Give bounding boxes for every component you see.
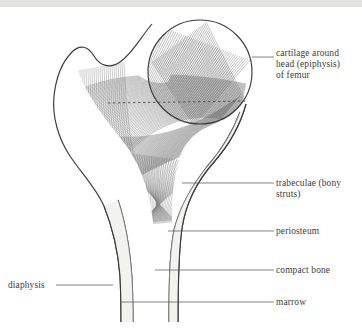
label-compact-bone: compact bone: [276, 265, 330, 276]
label-marrow: marrow: [276, 297, 306, 308]
label-trabeculae: trabeculae (bony struts): [276, 178, 341, 200]
label-periosteum: periosteum: [276, 226, 319, 237]
compact-bone-fill: [104, 104, 246, 322]
label-cartilage: cartilage around head (epiphysis) of fem…: [276, 48, 340, 82]
label-diaphysis: diaphysis: [8, 280, 45, 291]
trabeculae-hatching: [48, 22, 250, 226]
femur-diagram-figure: cartilage around head (epiphysis) of fem…: [0, 0, 362, 331]
